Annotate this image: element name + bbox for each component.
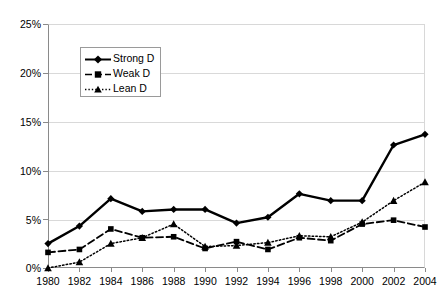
legend-label: Strong D — [113, 52, 154, 65]
x-tick-mark — [425, 268, 426, 272]
y-tick-label: 0% — [0, 263, 41, 273]
x-tick-mark — [48, 268, 49, 272]
legend-label: Weak D — [113, 67, 150, 80]
x-tick-mark — [174, 268, 175, 272]
legend-label: Lean D — [113, 82, 147, 95]
legend-swatch-square-icon — [84, 67, 112, 80]
x-tick-mark — [331, 268, 332, 272]
y-tick-label: 20% — [0, 68, 41, 78]
x-tick-label: 2004 — [405, 276, 441, 287]
y-tick-label: 25% — [0, 19, 41, 29]
legend-item-lean-d: Lean D — [81, 81, 160, 96]
y-tick-label: 10% — [0, 166, 41, 176]
y-tick-label: 15% — [0, 117, 41, 127]
x-tick-mark — [268, 268, 269, 272]
x-tick-mark — [205, 268, 206, 272]
y-tick-mark — [43, 171, 48, 172]
y-tick-label: 5% — [0, 215, 41, 225]
y-tick-mark — [43, 24, 48, 25]
x-tick-mark — [362, 268, 363, 272]
y-tick-mark — [43, 73, 48, 74]
x-tick-mark — [299, 268, 300, 272]
x-tick-mark — [111, 268, 112, 272]
legend-swatch-triangle-icon — [84, 82, 112, 95]
line-chart: 25% 20% 15% 10% 5% 0% 198019821984198619… — [0, 0, 441, 303]
x-tick-mark — [142, 268, 143, 272]
y-tick-mark — [43, 219, 48, 220]
legend-item-strong-d: Strong D — [81, 51, 160, 66]
x-tick-mark — [394, 268, 395, 272]
x-tick-mark — [79, 268, 80, 272]
legend-swatch-diamond-icon — [84, 52, 112, 65]
y-tick-mark — [43, 122, 48, 123]
legend: Strong D Weak D Lean D — [80, 47, 161, 97]
y-axis: 25% 20% 15% 10% 5% 0% — [0, 0, 441, 303]
x-tick-mark — [237, 268, 238, 272]
legend-item-weak-d: Weak D — [81, 66, 160, 81]
